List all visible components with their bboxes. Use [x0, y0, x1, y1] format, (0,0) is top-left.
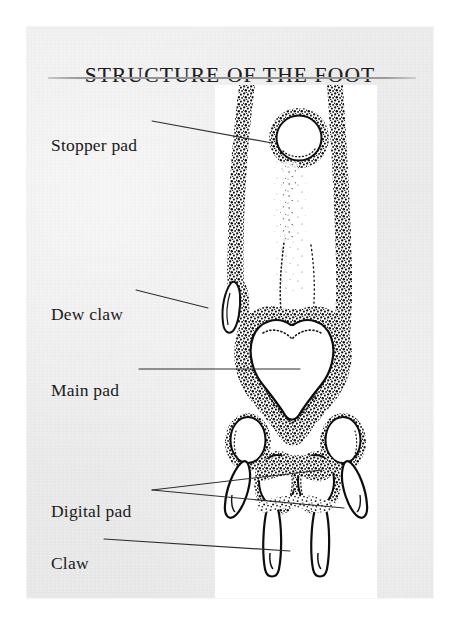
claw-center-right: [311, 503, 329, 577]
title-divider-rule: [48, 77, 416, 79]
illustration-panel: STRUCTURE OF THE FOOT: [27, 27, 433, 598]
claw-center-right-body: [311, 503, 329, 577]
digital-pad-outer-right-body: [326, 417, 361, 463]
label-claw: Claw: [51, 553, 89, 574]
page-canvas: STRUCTURE OF THE FOOT: [0, 0, 459, 620]
label-main-pad: Main pad: [51, 380, 119, 401]
label-digital-pad: Digital pad: [51, 501, 131, 522]
claw-center-left-body: [263, 503, 281, 577]
foot-illustration: [215, 85, 377, 598]
label-stopper-pad: Stopper pad: [51, 135, 137, 156]
claw-center-left: [263, 503, 281, 577]
digital-pad-outer-left-body: [231, 417, 266, 463]
label-dew-claw: Dew claw: [51, 304, 123, 325]
